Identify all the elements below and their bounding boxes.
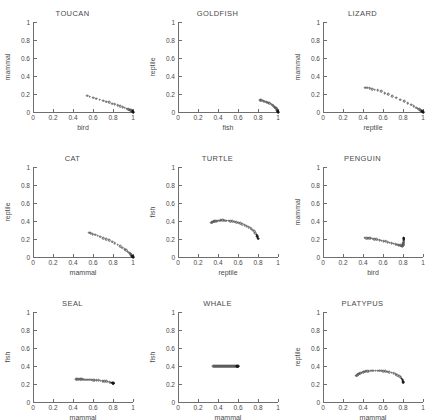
x-axis-tick-label: 0.2 xyxy=(338,404,347,411)
x-axis-tick-label: 0.6 xyxy=(233,404,242,411)
x-axis-tick xyxy=(133,399,134,402)
y-axis-tick-label: 0.4 xyxy=(21,363,30,370)
scatter-panel: SEAL00.20.40.60.8100.20.40.60.81mammalfi… xyxy=(0,290,145,420)
y-axis-tick-label: 0 xyxy=(26,109,30,116)
y-axis-tick-label: 0.8 xyxy=(21,182,30,189)
scatter-panel: PLATYPUS00.20.40.60.8100.20.40.60.81mamm… xyxy=(290,290,435,420)
x-axis-tick-label: 0.4 xyxy=(68,259,77,266)
panel-grid: TOUCAN00.20.40.60.8100.20.40.60.81birdma… xyxy=(0,0,435,420)
y-axis-tick-label: 1 xyxy=(26,309,30,316)
x-axis-label: mammal xyxy=(33,269,133,276)
panel-title: CAT xyxy=(0,154,145,163)
y-axis-tick-label: 0.4 xyxy=(311,73,320,80)
x-axis-tick-label: 0.6 xyxy=(88,259,97,266)
x-axis-tick xyxy=(423,399,424,402)
y-axis-tick-label: 0.2 xyxy=(311,381,320,388)
y-axis-tick-label: 0.2 xyxy=(166,91,175,98)
x-axis-tick-label: 0.8 xyxy=(398,259,407,266)
x-axis-tick-label: 0 xyxy=(31,259,35,266)
y-axis-tick-label: 0.2 xyxy=(311,91,320,98)
data-point xyxy=(383,92,386,95)
y-axis-tick-label: 1 xyxy=(171,309,175,316)
x-axis-tick-label: 0.8 xyxy=(253,404,262,411)
y-axis-tick-label: 1 xyxy=(171,19,175,26)
panel-title: PENGUIN xyxy=(290,154,435,163)
y-axis-tick-label: 0 xyxy=(316,399,320,406)
y-axis-tick-label: 0.2 xyxy=(166,236,175,243)
y-axis-tick-label: 0.6 xyxy=(311,200,320,207)
plot-area xyxy=(323,167,423,257)
x-axis-tick xyxy=(423,254,424,257)
x-axis-tick-label: 0.6 xyxy=(88,114,97,121)
y-axis-tick-label: 0.2 xyxy=(311,236,320,243)
panel-title: LIZARD xyxy=(290,9,435,18)
y-axis-label: fish xyxy=(4,352,11,363)
x-axis-label: mammal xyxy=(323,414,423,420)
x-axis-tick-label: 0 xyxy=(176,404,180,411)
y-axis-tick-label: 0.8 xyxy=(166,37,175,44)
x-axis-line xyxy=(323,257,423,258)
plot-area xyxy=(323,312,423,402)
plot-area xyxy=(178,167,278,257)
x-axis-tick-label: 0.6 xyxy=(233,114,242,121)
y-axis-tick-label: 0.4 xyxy=(166,218,175,225)
x-axis-tick-label: 0.4 xyxy=(213,259,222,266)
data-point xyxy=(95,97,98,100)
panel-title: GOLDFISH xyxy=(145,9,290,18)
panel-title: TURTLE xyxy=(145,154,290,163)
x-axis-tick-label: 0.8 xyxy=(398,114,407,121)
y-axis-tick-label: 0 xyxy=(171,399,175,406)
plot-area xyxy=(323,22,423,112)
y-axis-tick xyxy=(324,402,327,403)
y-axis-label: fish xyxy=(149,352,156,363)
y-axis-label: mammal xyxy=(4,54,11,81)
plot-area xyxy=(33,22,133,112)
y-axis-tick xyxy=(179,402,182,403)
y-axis-label: fish xyxy=(149,207,156,218)
x-axis-tick-label: 0.2 xyxy=(48,259,57,266)
y-axis-tick-label: 0.2 xyxy=(21,91,30,98)
y-axis-tick-label: 0 xyxy=(26,399,30,406)
x-axis-tick xyxy=(278,399,279,402)
y-axis-tick-label: 0 xyxy=(171,109,175,116)
y-axis-tick xyxy=(179,112,182,113)
y-axis-tick-label: 1 xyxy=(316,164,320,171)
y-axis-tick-label: 0.8 xyxy=(311,37,320,44)
x-axis-tick-label: 0.4 xyxy=(358,114,367,121)
x-axis-tick-label: 0.8 xyxy=(108,259,117,266)
x-axis-tick-label: 0 xyxy=(176,114,180,121)
x-axis-tick-label: 1 xyxy=(421,404,425,411)
scatter-panel: WHALE00.20.40.60.8100.20.40.60.81mammalf… xyxy=(145,290,290,420)
y-axis-tick-label: 0.4 xyxy=(21,73,30,80)
x-axis-tick-label: 0.4 xyxy=(358,259,367,266)
x-axis-tick-label: 1 xyxy=(131,404,135,411)
x-axis-tick-label: 0.6 xyxy=(378,259,387,266)
x-axis-tick-label: 0 xyxy=(176,259,180,266)
x-axis-label: reptile xyxy=(178,269,278,276)
y-axis-tick-label: 0.2 xyxy=(166,381,175,388)
x-axis-line xyxy=(323,112,423,113)
y-axis-tick-label: 0.8 xyxy=(311,182,320,189)
y-axis-label: mammal xyxy=(294,199,301,226)
x-axis-tick-label: 1 xyxy=(276,114,280,121)
y-axis-tick-label: 0.8 xyxy=(166,182,175,189)
y-axis-tick-label: 0.8 xyxy=(21,37,30,44)
x-axis-tick-label: 0.4 xyxy=(213,114,222,121)
y-axis-tick-label: 0.4 xyxy=(311,218,320,225)
y-axis-label: reptile xyxy=(149,57,156,76)
x-axis-tick-label: 0 xyxy=(321,114,325,121)
y-axis-tick xyxy=(324,257,327,258)
x-axis-tick-label: 0 xyxy=(321,404,325,411)
panel-title: WHALE xyxy=(145,299,290,308)
data-point xyxy=(422,111,425,114)
x-axis-label: bird xyxy=(323,269,423,276)
x-axis-tick-label: 0.6 xyxy=(378,114,387,121)
x-axis-tick-label: 0.6 xyxy=(88,404,97,411)
data-point xyxy=(377,89,380,92)
y-axis-tick-label: 0.8 xyxy=(166,327,175,334)
plot-area xyxy=(178,312,278,402)
y-axis-tick xyxy=(34,112,37,113)
y-axis-tick-label: 0 xyxy=(171,254,175,261)
data-point xyxy=(387,93,390,96)
figure-canvas: TOUCAN00.20.40.60.8100.20.40.60.81birdma… xyxy=(0,0,435,420)
